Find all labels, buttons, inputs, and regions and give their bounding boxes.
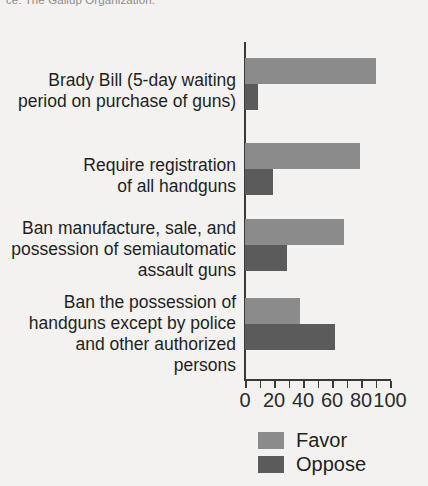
- category-label: Ban manufacture, sale, and possession of…: [11, 218, 236, 281]
- bar-oppose: [245, 169, 273, 195]
- gun-control-opinion-bar-chart: 020406080100 Brady Bill (5-day waiting p…: [0, 0, 428, 486]
- axis-tick: [361, 381, 363, 388]
- axis-tick: [390, 381, 392, 388]
- axis-tick: [376, 381, 378, 388]
- bar-favor: [245, 298, 300, 324]
- legend-label: Favor: [296, 429, 347, 452]
- bar-favor: [245, 58, 376, 84]
- category-label: Require registration of all handguns: [11, 155, 236, 197]
- axis-tick-label: 100: [373, 389, 406, 412]
- legend-swatch-oppose: [258, 456, 284, 473]
- category-label: Brady Bill (5-day waiting period on purc…: [11, 70, 236, 112]
- bar-oppose: [245, 245, 287, 271]
- axis-tick-label: 80: [350, 389, 372, 412]
- axis-tick: [289, 381, 291, 388]
- axis-tick: [347, 381, 349, 388]
- axis-tick: [318, 381, 320, 388]
- axis-tick: [303, 381, 305, 388]
- legend-swatch-favor: [258, 432, 284, 449]
- axis-tick: [332, 381, 334, 388]
- chart-legend: FavorOppose: [258, 428, 366, 476]
- legend-item: Oppose: [258, 452, 366, 476]
- bar-favor: [245, 143, 360, 169]
- bar-favor: [245, 219, 344, 245]
- bar-oppose: [245, 324, 335, 350]
- axis-tick: [274, 381, 276, 388]
- legend-item: Favor: [258, 428, 366, 452]
- axis-tick: [245, 381, 247, 388]
- axis-tick-label: 40: [292, 389, 314, 412]
- legend-label: Oppose: [296, 453, 366, 476]
- axis-tick-label: 0: [239, 389, 250, 412]
- axis-tick-label: 20: [263, 389, 285, 412]
- category-label: Ban the possession of handguns except by…: [11, 292, 236, 376]
- axis-tick-label: 60: [321, 389, 343, 412]
- axis-tick: [260, 381, 262, 388]
- bar-oppose: [245, 84, 258, 110]
